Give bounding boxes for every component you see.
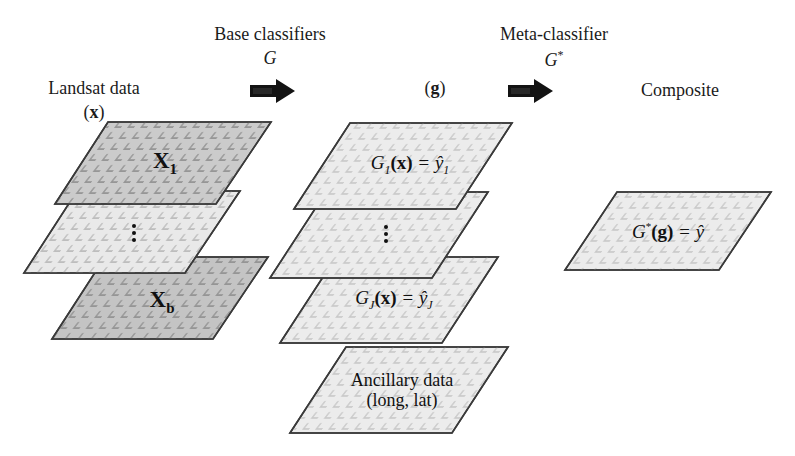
base-classifier-arrow (250, 78, 296, 108)
composite-layer: G*(g) = ŷ (563, 190, 773, 272)
intermediate-symbol: (g) (380, 78, 490, 99)
meta-symbol-star: * (558, 48, 564, 62)
stacked-classifier-diagram: Landsat data (x) Base classifiers G (g) … (0, 0, 795, 456)
base-classifiers-title: Base classifiers (176, 24, 364, 45)
meta-classifier-title: Meta-classifier (459, 24, 649, 45)
symbol-x: x (90, 102, 99, 122)
landsat-data-title: Landsat data (14, 78, 174, 99)
input-layer-x1: X1 (53, 120, 273, 206)
meta-symbol-g: G (545, 50, 558, 70)
paren-close: ) (99, 102, 105, 122)
middle-layer-g1: G1(x) = ŷ1 (292, 121, 514, 211)
meta-classifier-symbol: G* (459, 48, 649, 71)
paren-close-g: ) (440, 78, 446, 98)
ancillary-layer: Ancillary data (long, lat) (288, 345, 510, 435)
composite-title: Composite (600, 80, 760, 101)
meta-classifier-arrow (508, 78, 554, 108)
base-classifiers-symbol: G (176, 48, 364, 69)
symbol-g: g (431, 78, 440, 98)
